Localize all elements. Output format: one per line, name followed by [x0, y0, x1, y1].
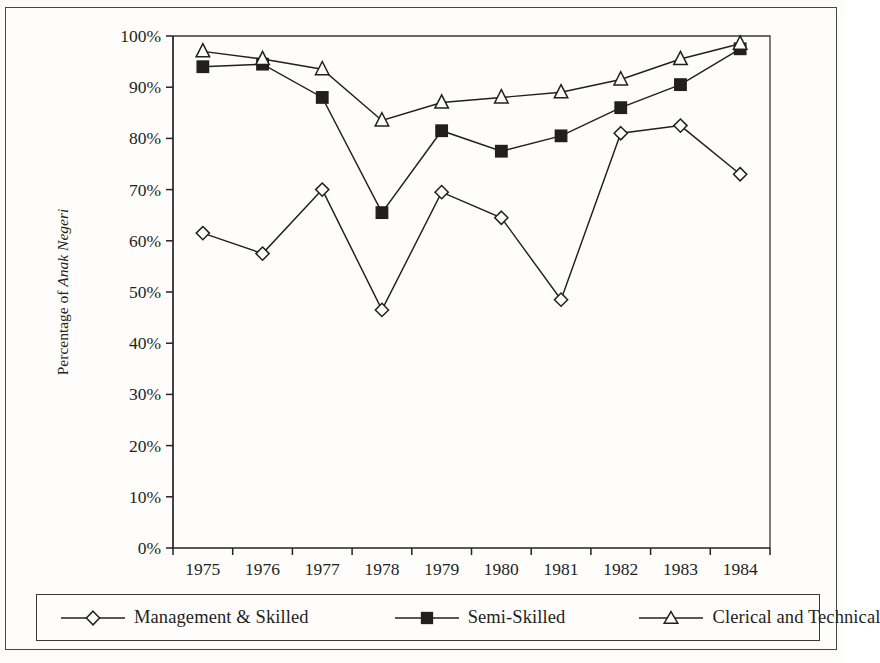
- data-point-filled-square: [555, 130, 567, 142]
- legend-label: Semi-Skilled: [468, 607, 566, 628]
- data-point-filled-square: [317, 92, 329, 104]
- data-point-open-diamond: [375, 303, 388, 316]
- legend-item-clerical-technical: Clerical and Technical: [639, 607, 880, 628]
- x-tick-label: 1981: [544, 559, 579, 579]
- x-tick-label: 1979: [424, 559, 459, 579]
- y-tick-label: 50%: [129, 282, 161, 302]
- data-point-open-diamond: [196, 227, 209, 240]
- y-tick-label: 20%: [129, 436, 161, 456]
- series-clerical-and-technical: [196, 36, 747, 126]
- series-polyline: [203, 44, 740, 121]
- y-tick-label: 30%: [129, 384, 161, 404]
- x-tick-label: 1983: [663, 559, 698, 579]
- data-point-filled-square: [675, 79, 687, 91]
- legend-item-semi-skilled: Semi-Skilled: [395, 607, 566, 628]
- y-tick-label: 80%: [129, 128, 161, 148]
- data-point-filled-square: [436, 125, 448, 137]
- legend-label: Management & Skilled: [134, 607, 309, 628]
- data-point-filled-square: [615, 102, 627, 114]
- y-tick-label: 40%: [129, 333, 161, 353]
- y-tick-label: 70%: [129, 180, 161, 200]
- data-point-filled-square: [376, 207, 388, 219]
- data-point-open-triangle: [196, 44, 210, 57]
- series-polyline: [203, 126, 740, 310]
- axis-ticks: [166, 36, 770, 555]
- y-axis-tick-labels: 0%10%20%30%40%50%60%70%80%90%100%: [120, 26, 161, 558]
- data-point-filled-square: [197, 61, 209, 73]
- x-tick-label: 1980: [484, 559, 519, 579]
- x-tick-label: 1977: [305, 559, 340, 579]
- data-point-open-diamond: [614, 127, 627, 140]
- open-diamond-icon: [61, 609, 125, 627]
- data-point-open-diamond: [554, 293, 567, 306]
- x-axis-tick-labels: 1975197619771978197919801981198219831984: [185, 559, 758, 579]
- data-point-filled-square: [496, 145, 508, 157]
- y-axis-title-text: Percentage of Anak Negeri: [54, 209, 71, 376]
- x-tick-label: 1982: [603, 559, 638, 579]
- series-management-skilled: [196, 119, 747, 317]
- y-tick-label: 0%: [138, 538, 161, 558]
- series-polyline: [203, 49, 740, 213]
- legend-item-management-skilled: Management & Skilled: [61, 607, 309, 628]
- y-tick-label: 60%: [129, 231, 161, 251]
- y-axis-title: Percentage of Anak Negeri: [54, 209, 71, 376]
- x-tick-label: 1975: [185, 559, 220, 579]
- y-tick-label: 90%: [129, 77, 161, 97]
- x-tick-label: 1978: [364, 559, 399, 579]
- plot-frame: [173, 36, 770, 548]
- data-point-open-diamond: [435, 186, 448, 199]
- y-tick-label: 100%: [120, 26, 161, 46]
- y-tick-label: 10%: [129, 487, 161, 507]
- data-point-open-diamond: [495, 211, 508, 224]
- x-tick-label: 1984: [723, 559, 758, 579]
- x-tick-label: 1976: [245, 559, 280, 579]
- filled-square-icon: [395, 609, 459, 627]
- series-semi-skilled: [197, 43, 746, 218]
- chart-legend: Management & Skilled Semi-Skilled Cleric…: [36, 594, 820, 641]
- open-triangle-icon: [639, 609, 703, 627]
- legend-label: Clerical and Technical: [712, 607, 880, 628]
- data-series-group: [196, 36, 747, 317]
